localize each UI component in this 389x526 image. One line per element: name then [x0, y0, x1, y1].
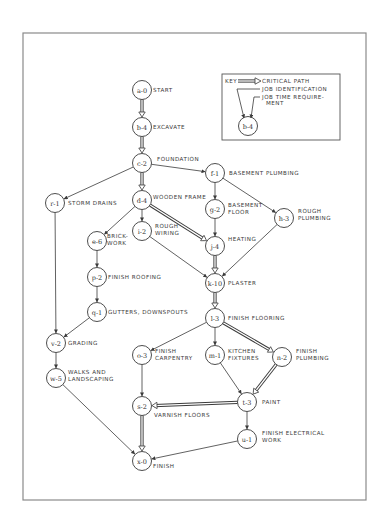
node-id: a-0	[137, 87, 147, 95]
node-label: ROUGH	[155, 223, 178, 229]
node-id: u-1	[242, 436, 253, 444]
node-label: VARNISH FLOORS	[154, 412, 210, 418]
edge-s-x	[139, 416, 145, 452]
node-u: u-1FINISH ELECTRICALWORK	[238, 430, 326, 449]
edge-q-v	[64, 318, 89, 337]
node-e: e-6BRICK-WORK	[88, 232, 129, 251]
edge-l-o	[151, 322, 207, 350]
node-label: WORK	[107, 240, 127, 246]
node-label: FINISH	[155, 348, 176, 354]
legend-critical-path-label: CRITICAL PATH	[262, 78, 310, 84]
node-label: START	[153, 87, 173, 93]
node-id: h-3	[279, 215, 290, 223]
node-label: PLUMBING	[296, 355, 329, 361]
node-label: BRICK-	[107, 233, 128, 239]
node-label: PAINT	[262, 399, 281, 405]
edge-t-s	[152, 402, 238, 408]
node-id: e-6	[92, 238, 102, 246]
node-l: l-3FINISH FLOORING	[206, 309, 285, 328]
node-label: WORK	[262, 437, 282, 443]
node-id: g-2	[210, 206, 221, 214]
node-v: v-2GRADING	[47, 334, 98, 353]
node-label: HEATING	[228, 236, 256, 242]
node-label: GUTTERS, DOWNSPOUTS	[108, 309, 188, 315]
edge-c-f	[151, 164, 205, 171]
legend-example-node: b-4	[239, 117, 258, 136]
node-label: PLASTER	[228, 280, 256, 286]
node-id: t-3	[243, 399, 252, 407]
node-i: i-2ROUGHWIRING	[133, 222, 180, 241]
edge-c-d	[139, 173, 145, 191]
node-f: f-1BASEMENT PLUMBING	[206, 164, 300, 183]
edge-h-k	[222, 225, 277, 277]
node-label: BASEMENT	[228, 202, 263, 208]
node-id: b-4	[137, 124, 148, 132]
node-label: WIRING	[155, 230, 179, 236]
node-id: q-1	[92, 309, 103, 317]
node-id: c-2	[137, 160, 147, 168]
node-a: a-0START	[133, 81, 173, 100]
critical-path-diagram: a-0STARTb-4EXCAVATEc-2FOUNDATIONf-1BASEM…	[0, 0, 389, 526]
legend-job-time-label-2: MENT	[266, 100, 284, 106]
node-label: FINISH ROOFING	[108, 274, 161, 280]
critical-arrowhead-icon	[212, 303, 218, 308]
edge-u-x	[152, 441, 238, 459]
node-id: m-1	[209, 352, 222, 360]
node-d: d-4WOODEN FRAME	[133, 191, 207, 210]
edge-w-x	[63, 385, 135, 454]
node-label: WALKS AND	[68, 369, 106, 375]
node-label: FOUNDATION	[157, 156, 199, 162]
node-id: f-1	[211, 170, 220, 178]
node-p: p-2FINISH ROOFING	[88, 268, 162, 287]
node-m: m-1KITCHENFIXTURES	[206, 346, 260, 365]
node-j: j-4HEATING	[206, 236, 257, 256]
edge-j-k	[212, 256, 218, 274]
node-r: r-1STORM DRAINS	[46, 194, 118, 213]
node-label: LANDSCAPING	[68, 376, 114, 382]
node-g: g-2BASEMENTFLOOR	[206, 200, 263, 219]
edge-d-e	[104, 206, 135, 234]
node-label: FLOOR	[228, 209, 249, 215]
node-h: h-3ROUGHPLUMBING	[275, 208, 332, 228]
node-label: WOODEN FRAME	[153, 194, 206, 200]
node-id: d-4	[137, 197, 148, 205]
node-id: p-2	[92, 274, 103, 282]
node-label: STORM DRAINS	[68, 200, 117, 206]
node-label: FINISH ELECTRICAL	[262, 430, 325, 436]
node-q: q-1GUTTERS, DOWNSPOUTS	[88, 303, 189, 322]
node-id: v-2	[50, 340, 61, 348]
edge-n-t	[253, 364, 276, 394]
critical-arrowhead-icon	[139, 148, 145, 153]
node-label: BASEMENT PLUMBING	[229, 170, 299, 176]
svg-text:b-4: b-4	[243, 123, 254, 131]
node-s: s-2VARNISH FLOORS	[133, 397, 210, 419]
node-label: CARPENTRY	[155, 355, 193, 361]
node-id: l-3	[211, 315, 219, 323]
node-label: FINISH FLOORING	[228, 315, 285, 321]
critical-arrowhead-icon	[139, 446, 145, 451]
node-id: x-0	[137, 458, 147, 466]
legend-title: KEY	[225, 78, 237, 84]
node-label: EXCAVATE	[153, 124, 185, 130]
node-id: j-4	[210, 243, 219, 251]
node-id: k-10	[208, 280, 222, 288]
node-label: KITCHEN	[228, 348, 256, 354]
edge-m-t	[220, 363, 241, 394]
edge-k-l	[212, 293, 218, 309]
node-x: x-0FINISH	[133, 452, 175, 471]
node-label: ROUGH	[298, 208, 321, 214]
critical-arrowhead-icon	[152, 402, 157, 408]
node-id: s-2	[137, 403, 147, 411]
node-id: n-2	[277, 354, 288, 362]
critical-arrowhead-icon	[212, 268, 218, 273]
node-n: n-2FINISHPLUMBING	[273, 348, 330, 367]
legend-key: KEYCRITICAL PATHJOB IDENTIFICATIONJOB TI…	[222, 74, 340, 140]
node-w: w-5WALKS ANDLANDSCAPING	[47, 369, 114, 388]
edge-i-k	[150, 237, 207, 278]
critical-arrowhead-icon	[139, 112, 145, 117]
node-id: o-3	[137, 352, 147, 360]
node-o: o-3FINISHCARPENTRY	[133, 346, 193, 365]
node-label: FIXTURES	[228, 355, 259, 361]
critical-arrowhead-icon	[139, 185, 145, 190]
node-id: i-2	[138, 228, 146, 236]
